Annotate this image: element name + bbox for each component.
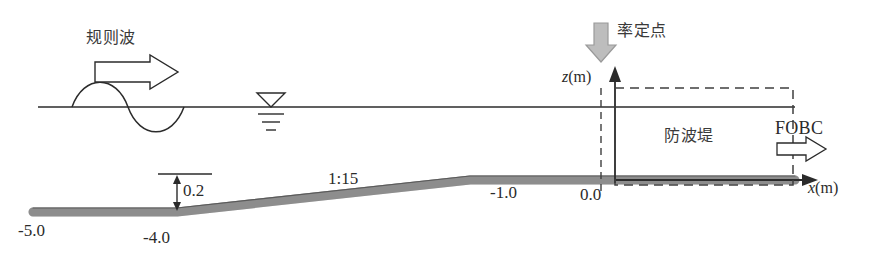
incident-wave-label: 规则波 [86,30,136,46]
x-axis-unit: (m) [815,179,838,196]
breakwater-label: 防波堤 [664,128,714,144]
slope-ratio-label: 1:15 [328,170,358,187]
step-height-label: 0.2 [183,182,204,199]
x-tick-minus-5: -5.0 [18,222,45,239]
x-tick-zero: 0.0 [580,186,601,203]
calibration-point-label: 率定点 [617,23,667,39]
block-arrow-right-small-icon [777,137,826,161]
x-axis-label: x(m) [808,180,838,196]
wave-flume-diagram: 规则波 率定点 防波堤 FOBC 1:15 0.2 z(m) x(m) -5.0… [0,0,873,262]
seabed-profile-outline [33,180,795,212]
x-tick-minus-1: -1.0 [490,184,517,201]
block-arrow-down-icon [586,23,616,62]
fobc-label: FOBC [775,119,823,137]
z-axis-label: z(m) [562,69,591,85]
z-axis-unit: (m) [568,68,591,85]
water-level-triangle-icon [257,93,285,130]
x-tick-minus-4: -4.0 [143,229,170,246]
